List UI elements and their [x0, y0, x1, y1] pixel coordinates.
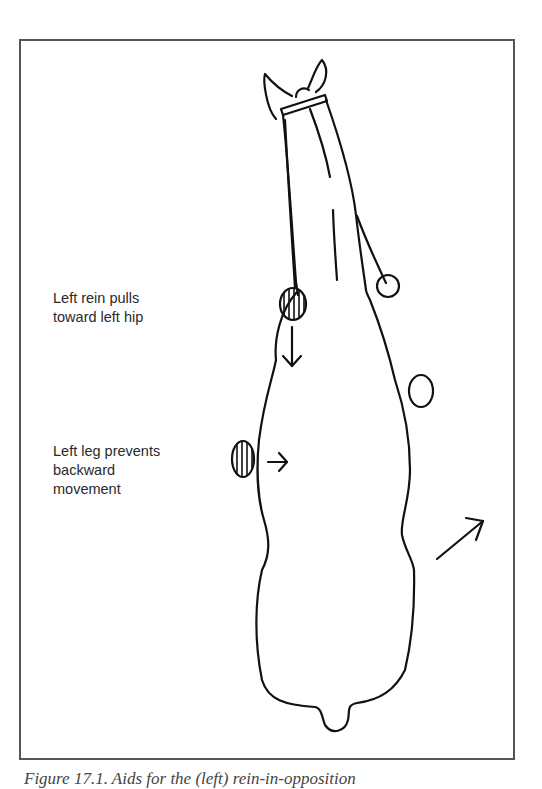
- body-outline: [256, 290, 414, 731]
- leg-push-arrow-icon: [268, 453, 287, 471]
- right-rein-aid-marker: [377, 275, 399, 297]
- left-ear-icon: [264, 74, 292, 119]
- figure-caption: Figure 17.1. Aids for the (left) rein-in…: [24, 769, 356, 789]
- neck-inner-line: [333, 210, 337, 280]
- rein-aid-label: Left rein pulls toward left hip: [53, 289, 143, 327]
- left-rein-aid-marker: [280, 285, 306, 325]
- leg-aid-label: Left leg prevents backward movement: [53, 442, 160, 499]
- poll-icon: [296, 88, 309, 97]
- left-leg-aid-marker: [232, 438, 254, 480]
- neck-right-outline: [326, 100, 366, 290]
- neck-crest-line: [310, 109, 330, 177]
- right-leg-aid-marker: [409, 375, 433, 407]
- movement-arrow-icon: [437, 518, 483, 559]
- left-rein-line: [285, 120, 295, 288]
- browband-icon: [281, 95, 327, 115]
- rein-pull-arrow-icon: [283, 327, 301, 366]
- right-ear-icon: [308, 60, 326, 92]
